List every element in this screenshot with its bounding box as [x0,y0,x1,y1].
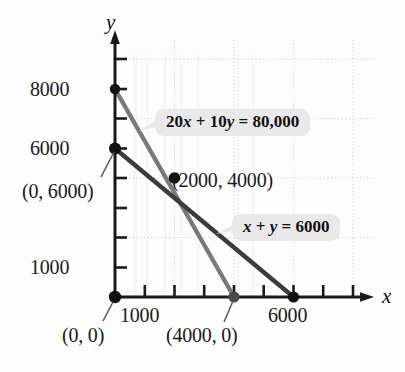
callout1-coef-x: 20 [166,112,183,131]
y-axis [110,30,127,297]
callout1-plus: + [192,112,210,131]
callout-line-x-plus-y: x + y = 6000 [232,214,340,241]
point-0-6000 [109,143,121,155]
y-tick-label-1000: 1000 [30,256,69,279]
x-tick-label-1000: 1000 [120,304,159,327]
callout2-equals: = [277,217,295,236]
x-axis [113,285,374,302]
label-y-intercept: (0, 6000) [22,180,94,203]
callout1-var-x: x [183,112,192,131]
callout2-rhs: 6000 [295,217,329,236]
leader-4000-0 [224,301,233,322]
label-x-intercept: (4000, 0) [166,324,238,347]
point-6000-0 [288,291,299,302]
x-tick-label-6000: 6000 [268,304,307,327]
callout2-var-x: x [243,217,252,236]
callout1-rhs: 80,000 [252,112,299,131]
callout2-plus: + [252,217,270,236]
x-axis-letter: x [382,284,391,309]
y-tick-label-8000: 8000 [30,78,69,101]
point-4000-0 [228,291,239,302]
y-axis-letter: y [106,10,115,35]
leader-0-6000 [101,152,114,177]
label-intersection: (2000, 4000) [172,169,273,192]
callout-line-20x-10y: 20x + 10y = 80,000 [155,109,310,136]
y-tick-label-6000: 6000 [30,137,69,160]
callout1-coef-y: 10 [210,112,227,131]
point-0-8000 [110,84,120,94]
leader-origin [103,302,113,321]
graph-figure: 8000 6000 1000 1000 6000 (0, 6000) (0, 0… [0,0,405,372]
callout1-equals: = [234,112,252,131]
point-origin [109,291,121,303]
label-origin: (0, 0) [62,324,104,347]
